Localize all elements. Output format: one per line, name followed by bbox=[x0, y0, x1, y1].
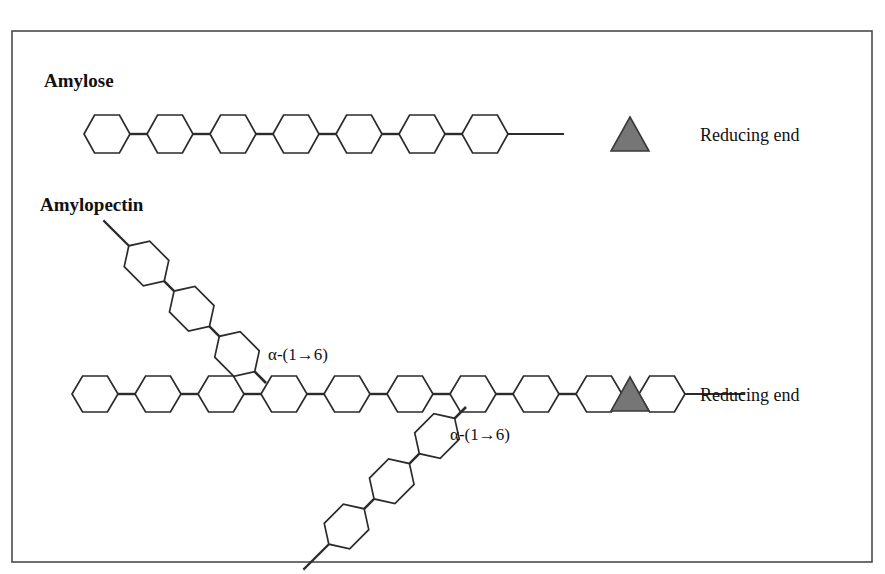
amylose-title: Amylose bbox=[44, 70, 114, 91]
starch-structure-diagram: Amylose Reducing end Amylopectin α-(1→6)… bbox=[0, 0, 885, 574]
figure-root: Amylose Reducing end Amylopectin α-(1→6)… bbox=[0, 0, 885, 574]
alpha-1-6-label-lower: α-(1→6) bbox=[450, 425, 510, 444]
amylose-reducing-end-label: Reducing end bbox=[700, 125, 799, 145]
amylopectin-reducing-end-label: Reducing end bbox=[700, 385, 799, 405]
alpha-1-6-label-upper: α-(1→6) bbox=[268, 345, 328, 364]
figure-border bbox=[12, 31, 872, 562]
amylopectin-title: Amylopectin bbox=[40, 194, 144, 215]
